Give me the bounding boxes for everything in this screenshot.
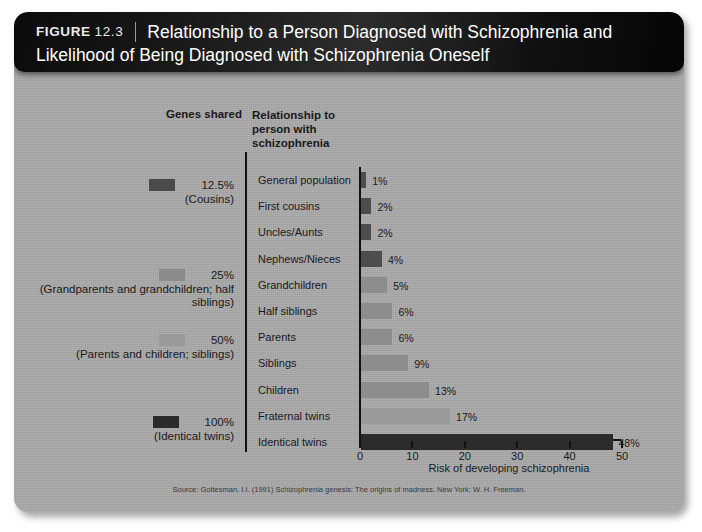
x-tick-label: 50 [610,450,634,462]
bar-chart-plot: 1%2%2%4%5%6%6%9%13%17%48% 01020304050 [359,167,659,457]
bar [361,303,392,319]
legend-color-swatch [159,334,185,346]
category-label: General population [258,174,351,186]
legend-percent: 100% [205,416,234,428]
legend-item: 50%(Parents and children; siblings) [24,330,234,361]
bar [361,382,429,398]
x-tick [411,441,413,448]
bar-value-label: 2% [377,201,392,213]
x-tick-label: 30 [505,450,529,462]
category-label: Siblings [258,357,297,369]
bar [361,434,613,450]
x-axis-title: Risk of developing schizophrenia [359,462,659,474]
bar [361,277,387,293]
x-tick-label: 0 [348,450,372,462]
figure-card: FIGURE12.3Relationship to a Person Diagn… [14,12,684,512]
bar-value-label: 17% [456,411,477,423]
legend-item: 25%(Grandparents and grandchildren; half… [24,265,234,309]
bar-value-label: 13% [435,385,456,397]
bar [361,408,450,424]
bar-value-label: 5% [393,280,408,292]
bar [361,355,408,371]
legend-percent: 50% [211,334,234,346]
x-tick [516,441,518,448]
bar-value-label: 1% [372,175,387,187]
bar-value-label: 6% [398,306,413,318]
bar [361,224,371,240]
bar [361,198,371,214]
x-tick [621,441,623,448]
x-tick [464,441,466,448]
category-label: Identical twins [258,436,327,448]
legend-item-header: 100% [24,412,234,430]
legend-item-header: 50% [24,330,234,348]
category-label: Half siblings [258,305,317,317]
legend-color-swatch [153,416,179,428]
bar [361,172,366,188]
category-label: First cousins [258,200,320,212]
column-divider [245,152,247,452]
category-label: Uncles/Aunts [258,226,323,238]
x-tick-label: 10 [400,450,424,462]
category-label: Fraternal twins [258,410,330,422]
legend-group-label: (Grandparents and grandchildren; half si… [24,283,234,309]
x-tick-label: 40 [558,450,582,462]
bar-value-label: 9% [414,358,429,370]
legend-percent: 12.5% [201,179,234,191]
bar [361,251,382,267]
relationship-header: Relationship to person with schizophreni… [252,108,372,150]
category-label: Grandchildren [258,279,327,291]
header-divider [135,22,136,42]
x-tick [569,441,571,448]
bar [361,329,392,345]
legend-item-header: 25% [24,265,234,283]
category-label: Children [258,384,299,396]
legend-item: 100%(Identical twins) [24,412,234,443]
category-label: Parents [258,331,296,343]
legend-item-header: 12.5% [24,175,234,193]
x-tick-label: 20 [453,450,477,462]
category-label: Nephews/Nieces [258,253,341,265]
legend-color-swatch [149,179,175,191]
bar-value-label: 6% [398,332,413,344]
legend-group-label: (Cousins) [24,193,234,206]
bar-value-label: 2% [377,227,392,239]
legend-color-swatch [159,269,185,281]
legend-percent: 25% [211,269,234,281]
legend-group-label: (Parents and children; siblings) [24,348,234,361]
figure-header-bar: FIGURE12.3Relationship to a Person Diagn… [14,12,684,72]
legend-group-label: (Identical twins) [24,430,234,443]
x-tick [359,441,361,448]
figure-number: 12.3 [95,24,124,39]
legend-item: 12.5%(Cousins) [24,175,234,206]
source-note: Source: Gottesman, I.I. (1991) Schizophr… [14,485,684,494]
bar-value-label: 4% [388,254,403,266]
figure-label: FIGURE [36,24,91,39]
